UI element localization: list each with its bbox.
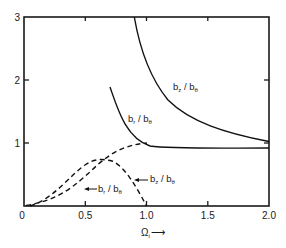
curve-bz-dashed (30, 160, 147, 206)
curve-br-solid (110, 87, 269, 148)
y-tick-labels: 1 2 3 (14, 12, 20, 149)
svg-text:bz / bθ: bz / bθ (173, 81, 199, 93)
svg-text:br / bθ: br / bθ (128, 113, 153, 125)
x-ticks (85, 17, 208, 206)
x-axis-label: Ωi⟶ (141, 227, 165, 239)
svg-text:0: 0 (19, 210, 25, 221)
svg-text:br / bθ: br / bθ (98, 183, 123, 195)
svg-text:2: 2 (14, 75, 20, 86)
label-br-solid: br / bθ (128, 113, 153, 125)
curve-bz-solid (134, 17, 269, 142)
svg-text:bz / bθ: bz / bθ (150, 173, 176, 185)
label-bz-dashed: bz / bθ (134, 173, 176, 185)
svg-text:1: 1 (14, 138, 20, 149)
svg-text:1.5: 1.5 (201, 210, 215, 221)
svg-text:1.0: 1.0 (140, 210, 154, 221)
label-br-dashed: br / bθ (84, 183, 123, 195)
svg-text:3: 3 (14, 12, 20, 23)
label-bz-solid: bz / bθ (173, 81, 199, 93)
svg-text:0.5: 0.5 (78, 210, 92, 221)
chart: 0 0.5 1.0 1.5 2.0 1 2 3 Ωi⟶ bz / bθ br /… (0, 0, 286, 248)
curve-br-dashed (26, 143, 147, 206)
svg-text:2.0: 2.0 (262, 210, 276, 221)
x-tick-labels: 0 0.5 1.0 1.5 2.0 (19, 210, 276, 221)
plot-frame (24, 17, 269, 206)
